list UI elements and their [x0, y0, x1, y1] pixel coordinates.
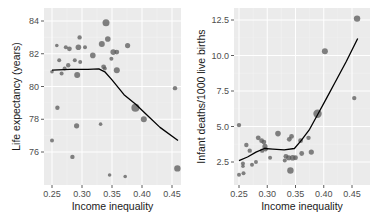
data-point — [74, 72, 80, 78]
data-point — [73, 58, 77, 62]
data-point — [114, 50, 119, 55]
figure: 0.250.300.350.400.457678808284Income ine… — [0, 0, 379, 224]
y-tick-label: 76 — [29, 147, 39, 157]
data-point — [174, 165, 180, 171]
data-point — [299, 151, 304, 156]
y-tick-label: 5.0 — [216, 122, 229, 132]
data-point — [244, 143, 248, 147]
data-point — [114, 67, 120, 73]
data-point — [248, 148, 252, 152]
x-tick-label: 0.35 — [103, 189, 121, 199]
infant-deaths-chart: 0.250.300.350.400.452.55.07.510.012.5Inc… — [195, 8, 370, 212]
data-point — [60, 71, 64, 75]
data-point — [254, 160, 258, 164]
data-point — [306, 136, 310, 140]
data-point — [103, 19, 110, 26]
data-point — [50, 139, 54, 143]
data-point — [74, 123, 79, 128]
data-point — [77, 35, 81, 39]
x-axis-title: Income inequality — [261, 200, 343, 212]
data-point — [99, 122, 103, 126]
x-tick-label: 0.45 — [343, 189, 361, 199]
y-tick-label: 84 — [29, 16, 39, 26]
data-point — [287, 167, 293, 173]
plot-panel — [234, 8, 370, 185]
y-tick-label: 7.5 — [216, 86, 229, 96]
data-point — [287, 137, 292, 142]
data-point — [354, 15, 360, 21]
data-point — [90, 53, 96, 59]
y-tick-label: 12.5 — [211, 15, 229, 25]
data-point — [55, 44, 59, 48]
data-point — [131, 104, 139, 112]
x-tick-label: 0.25 — [43, 189, 61, 199]
y-axis-title: Life expectancy (years) — [10, 42, 22, 151]
x-tick-label: 0.30 — [73, 189, 91, 199]
y-tick-label: 80 — [29, 82, 39, 92]
data-point — [76, 44, 82, 50]
data-point — [261, 140, 266, 145]
x-tick-label: 0.35 — [287, 189, 305, 199]
data-point — [250, 163, 254, 167]
data-point — [78, 60, 82, 64]
data-point — [141, 116, 147, 122]
data-point — [67, 46, 72, 51]
x-tick-label: 0.45 — [163, 189, 181, 199]
y-tick-label: 10.0 — [211, 51, 229, 61]
data-point — [99, 41, 105, 47]
data-point — [242, 171, 246, 175]
data-point — [57, 58, 61, 62]
data-point — [125, 43, 130, 48]
data-point — [293, 155, 298, 160]
y-tick-label: 82 — [29, 49, 39, 59]
data-point — [108, 173, 112, 177]
data-point — [66, 63, 70, 67]
x-tick-label: 0.25 — [230, 189, 248, 199]
data-point — [105, 36, 111, 42]
data-point — [173, 86, 177, 90]
data-point — [55, 106, 59, 110]
x-tick-label: 0.40 — [133, 189, 151, 199]
data-point — [123, 175, 127, 179]
x-tick-label: 0.40 — [315, 189, 333, 199]
figure-canvas: 0.250.300.350.400.457678808284Income ine… — [0, 0, 379, 224]
data-point — [237, 123, 241, 127]
data-point — [309, 149, 314, 154]
data-point — [241, 164, 245, 168]
data-point — [283, 159, 287, 163]
data-point — [109, 57, 113, 61]
data-point — [103, 66, 107, 70]
x-axis-title: Income inequality — [72, 200, 154, 212]
data-point — [322, 48, 328, 54]
data-point — [275, 131, 281, 137]
y-tick-label: 78 — [29, 114, 39, 124]
data-point — [70, 155, 74, 159]
y-axis-title: Infant deaths/1000 live births — [195, 29, 207, 163]
data-point — [237, 173, 241, 177]
life-expectancy-chart: 0.250.300.350.400.457678808284Income ine… — [10, 8, 181, 212]
y-tick-label: 2.5 — [216, 157, 229, 167]
data-point — [268, 156, 272, 160]
data-point — [83, 45, 87, 49]
data-point — [352, 96, 356, 100]
x-tick-label: 0.30 — [258, 189, 276, 199]
